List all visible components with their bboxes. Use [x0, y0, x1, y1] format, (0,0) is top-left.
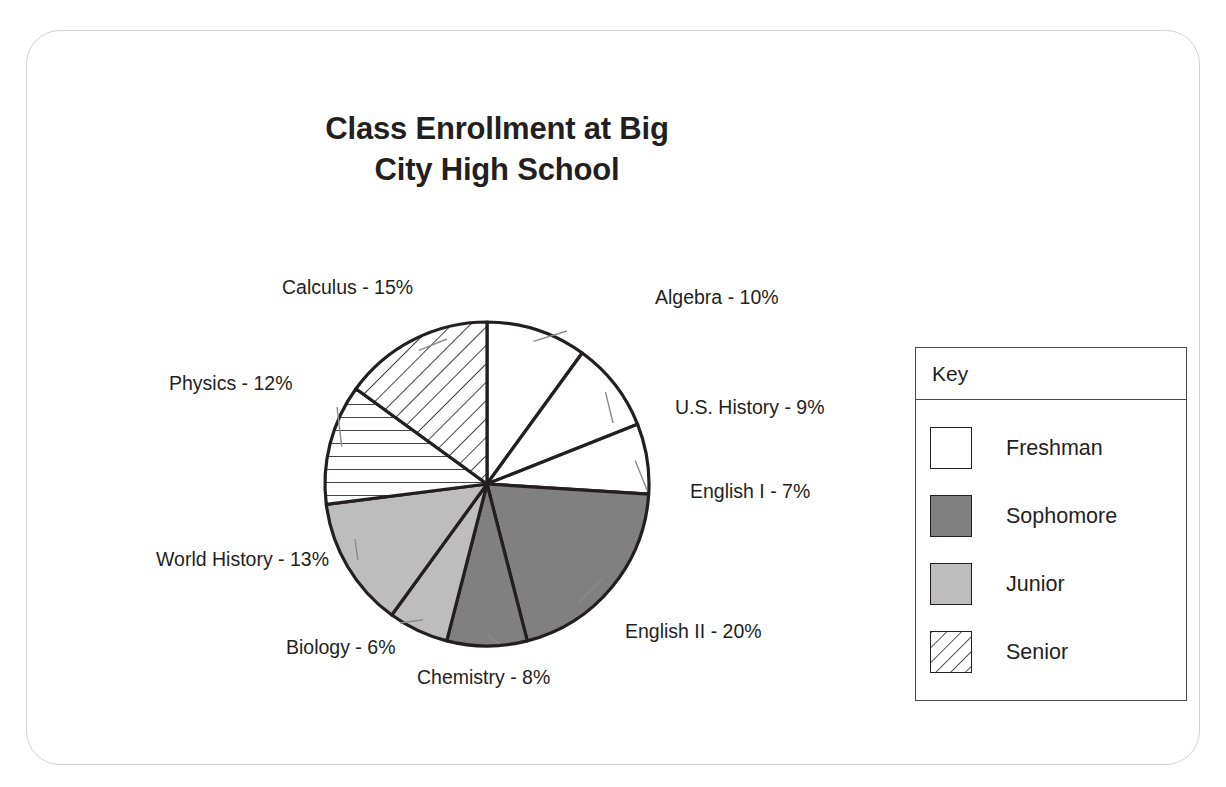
legend-title: Key	[916, 348, 1186, 400]
chart-card: Class Enrollment at Big City High School…	[26, 30, 1200, 765]
slice-label-algebra: Algebra - 10%	[655, 286, 779, 308]
slice-label-physics: Physics - 12%	[169, 372, 293, 394]
legend-item-senior[interactable]: Senior	[930, 618, 1186, 686]
slice-label-biology: Biology - 6%	[286, 636, 395, 658]
legend-items: FreshmanSophomoreJuniorSenior	[916, 400, 1186, 686]
pie-chart: Algebra - 10%U.S. History - 9%English I …	[147, 261, 907, 731]
slice-label-chemistry: Chemistry - 8%	[417, 666, 550, 688]
pie-slices	[325, 322, 649, 646]
legend-label: Sophomore	[1006, 504, 1117, 529]
legend-label: Senior	[1006, 640, 1068, 665]
slice-label-world-history: World History - 13%	[156, 548, 329, 570]
legend-label: Junior	[1006, 572, 1065, 597]
slice-label-english-ii: English II - 20%	[625, 620, 762, 642]
legend-swatch-junior	[930, 563, 972, 605]
slice-label-english-i: English I - 7%	[690, 480, 810, 502]
slice-label-u-s-history: U.S. History - 9%	[675, 396, 825, 418]
legend-swatch-senior	[930, 631, 972, 673]
page-title: Class Enrollment at Big City High School	[207, 109, 787, 191]
legend-label: Freshman	[1006, 436, 1103, 461]
legend-item-junior[interactable]: Junior	[930, 550, 1186, 618]
legend-item-freshman[interactable]: Freshman	[930, 414, 1186, 482]
slice-label-calculus: Calculus - 15%	[282, 276, 413, 298]
legend-swatch-sophomore	[930, 495, 972, 537]
legend-box: Key FreshmanSophomoreJuniorSenior	[915, 347, 1187, 701]
legend-swatch-freshman	[930, 427, 972, 469]
legend-item-sophomore[interactable]: Sophomore	[930, 482, 1186, 550]
